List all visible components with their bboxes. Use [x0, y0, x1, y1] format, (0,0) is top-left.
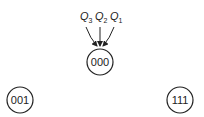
node-label: 000 [91, 56, 109, 68]
arrow-q3 [86, 27, 97, 46]
state-diagram: Q3 Q2 Q1 000 001 111 [0, 0, 204, 117]
input-label-q1: Q1 [110, 10, 123, 24]
node-000: 000 [87, 49, 113, 75]
node-label: 111 [172, 94, 189, 106]
input-label-q3: Q3 [80, 10, 93, 24]
input-label-q2: Q2 [95, 10, 108, 24]
node-111: 111 [167, 87, 193, 113]
arrow-q1 [103, 27, 114, 46]
node-label: 001 [11, 94, 29, 106]
node-001: 001 [7, 87, 33, 113]
